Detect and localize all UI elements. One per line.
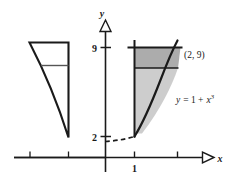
curve-equation-y: y — [175, 95, 181, 105]
x-axis-group — [14, 152, 214, 164]
companion-shape-outline — [30, 43, 69, 138]
y-axis-arrowhead-icon — [100, 20, 111, 32]
svg-text:y= 1 +x3: y= 1 +x3 — [175, 93, 215, 105]
y-tick-label-2: 2 — [92, 132, 97, 143]
point-label-2-9: (2, 9) — [184, 50, 205, 61]
curve-equation-exponent: 3 — [210, 93, 215, 100]
companion-shape-group — [30, 43, 69, 138]
figure-container: y x 9 2 1 (2, 9) y= 1 +x3 — [0, 0, 231, 179]
x-axis-arrowhead-icon — [203, 152, 215, 163]
left-axis-group — [14, 152, 105, 158]
x-axis-label: x — [217, 153, 223, 164]
y-axis-label: y — [99, 8, 105, 19]
y-tick-label-9: 9 — [92, 43, 97, 54]
curve-equation-middle: = 1 + — [183, 95, 203, 105]
y-axis-group — [100, 20, 111, 172]
curve-equation-label: y= 1 +x3 — [175, 93, 215, 105]
x-tick-label-1: 1 — [132, 163, 137, 174]
graph-figure: y x 9 2 1 (2, 9) y= 1 +x3 — [0, 0, 231, 179]
